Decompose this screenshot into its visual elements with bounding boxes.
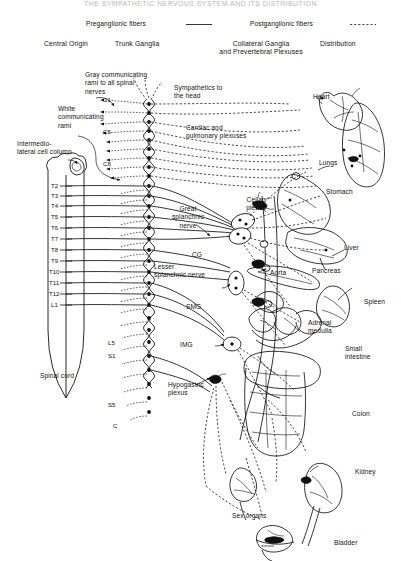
gray-rami-communicantes	[100, 99, 147, 420]
lungs-illustration	[342, 103, 384, 187]
segment-label-s5: S5	[108, 402, 115, 409]
segment-label-l5: L5	[108, 340, 115, 347]
segment-label-t10: T10	[49, 269, 60, 276]
segment-label-t8: T8	[51, 247, 58, 254]
label-aorta: Aorta	[270, 269, 286, 277]
organ-label-bladder: Bladder	[334, 539, 357, 547]
column-header-central-origin: Central Origin	[44, 40, 88, 48]
kidney-illustration	[301, 463, 342, 546]
label-sympathetics-to-head: Sympathetics to the head	[174, 84, 222, 101]
segment-label-t9: T9	[51, 258, 58, 265]
label-celiac-ganglion: CG	[192, 251, 202, 259]
segment-label-t6: T6	[51, 225, 58, 232]
bladder-illustration	[256, 526, 294, 561]
segment-label-t5: T5	[51, 214, 58, 221]
organ-label-sex-organs: Sex organs	[232, 512, 266, 520]
segment-label-c1: C1	[103, 97, 111, 104]
segment-label-t4: T4	[51, 203, 58, 210]
legend-preganglionic: Preganglionic fibers	[86, 20, 146, 28]
colon-illustration	[244, 351, 320, 456]
stomach-illustration	[277, 175, 330, 235]
liver-illustration	[286, 228, 347, 271]
label-great-splanchnic-nerve: Great splanchnic nerve	[160, 205, 216, 230]
figure-canvas: THE SYMPATHETIC NERVOUS SYSTEM AND ITS D…	[0, 0, 401, 561]
organ-label-small-intestine: Small intestine	[345, 345, 370, 362]
label-cardiac-pulmonary-plexuses: Cardiac and pulmonary plexuses	[186, 124, 246, 141]
label-hypogastric-plexus: Hypogastric plexus	[168, 381, 204, 398]
label-celiac-plexus: Celiac plexus	[238, 196, 274, 213]
hypogastric-plexus-mark	[209, 374, 226, 384]
label-lesser-splanchnic-nerve: Lesser splanchnic nerve	[154, 263, 205, 280]
label-spinal-cord: Spinal cord	[40, 372, 74, 380]
segment-label-t11: T11	[49, 280, 59, 287]
organ-label-spleen: Spleen	[364, 298, 385, 306]
organ-label-colon: Colon	[352, 410, 370, 418]
label-gray-rami: Gray communicating rami to all spinal ne…	[85, 71, 147, 96]
inferior-mesenteric-ganglion	[223, 337, 241, 351]
white-rami-communicantes	[66, 186, 147, 305]
segment-label-s1: S1	[108, 353, 115, 360]
organ-label-pancreas: Pancreas	[312, 267, 341, 275]
organ-label-adrenal-medulla: Adrenal medulla	[308, 319, 332, 336]
column-header-distribution: Distribution	[320, 40, 356, 48]
segment-label-t7: T7	[51, 236, 58, 243]
segment-label-l1: L1	[51, 302, 58, 309]
column-header-trunk-ganglia: Trunk Ganglia	[115, 40, 159, 48]
organ-label-liver: Liver	[344, 244, 359, 252]
label-intermediolateral-cell-column: Intermedio- lateral cell column	[17, 140, 72, 157]
legend-postganglionic: Postganglionic fibers	[250, 20, 313, 28]
organ-label-stomach: Stomach	[326, 188, 353, 196]
column-header-collateral-ganglia: Collateral Ganglia and Prevertebral Plex…	[202, 40, 320, 57]
segment-label-c5: C5	[103, 129, 111, 136]
label-superior-mesenteric-ganglion: SMG	[186, 303, 201, 311]
label-inferior-mesenteric-ganglion: IMG	[180, 341, 193, 349]
segment-label-coccygeal: C	[113, 423, 117, 430]
superior-mesenteric-ganglion	[228, 271, 244, 295]
least-lumbar-splanchnic-nerves	[151, 283, 224, 340]
aorta	[240, 173, 300, 442]
organ-label-kidney: Kidney	[355, 468, 376, 476]
celiac-ganglion	[228, 211, 257, 246]
segment-label-t12: T12	[49, 291, 60, 298]
organ-label-heart: Heart	[313, 93, 330, 101]
label-white-rami: White communicating rami	[58, 105, 104, 130]
segment-label-t2: T2	[51, 183, 58, 190]
segment-label-c8: C8	[103, 161, 111, 168]
segment-label-t3: T3	[51, 193, 58, 200]
sympathetic-trunk-chain	[144, 100, 155, 414]
organ-label-lungs: Lungs	[319, 159, 337, 167]
